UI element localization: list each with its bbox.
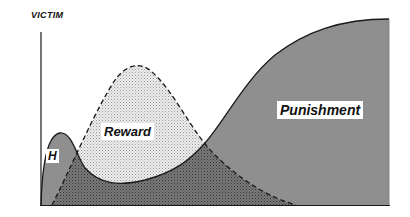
diagram: VICTIM H Reward Punishment xyxy=(0,0,410,217)
y-axis-label: VICTIM xyxy=(31,10,63,20)
punishment-label: Punishment xyxy=(277,101,363,119)
reward-label: Reward xyxy=(101,123,154,140)
h-label: H xyxy=(46,149,59,163)
